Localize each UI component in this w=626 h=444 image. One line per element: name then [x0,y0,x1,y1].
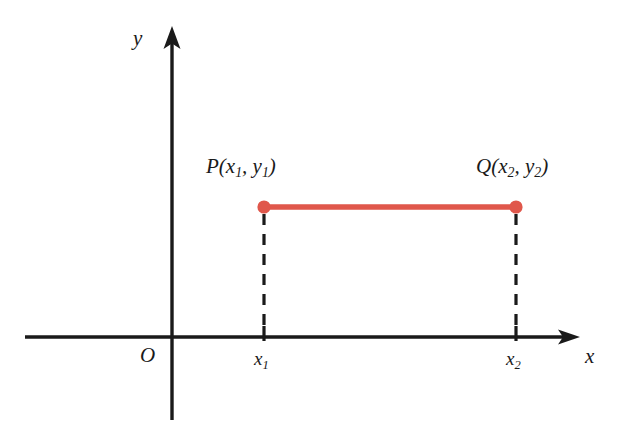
point-label-p-y-sub: 1 [262,165,269,180]
point-label-p-x-var: x [226,154,235,178]
point-label-q-letter: Q [476,154,491,178]
point-label-q-comma: , [514,154,525,178]
point-label-p-x-sub: 1 [235,165,242,180]
x-axis-label: x [585,346,594,367]
y-axis-label: y [133,28,142,49]
tick-label-x2: x2 [506,349,521,368]
point-marker-q [509,200,522,213]
point-label-p-letter: P [206,154,219,178]
point-label-q-x-sub: 2 [508,165,515,180]
tick-label-x2-sub: 2 [514,358,520,372]
point-label-p-y-var: y [253,154,262,178]
point-label-q-x-var: x [498,154,507,178]
point-label-p-open-paren: ( [219,154,226,178]
point-label-q: Q(x2, y2) [476,156,548,177]
tick-label-x1-sub: 1 [262,358,268,372]
point-label-p-comma: , [242,154,253,178]
coordinate-plane-figure: y x O P(x1, y1) Q(x2, y2) x1 x2 [0,0,626,444]
point-label-q-y-var: y [525,154,534,178]
point-label-p-close-paren: ) [269,154,276,178]
origin-label: O [140,345,155,366]
point-marker-p [257,200,270,213]
point-label-q-close-paren: ) [541,154,548,178]
point-label-q-y-sub: 2 [534,165,541,180]
tick-label-x1: x1 [254,349,269,368]
figure-canvas [0,0,626,444]
point-label-p: P(x1, y1) [206,156,276,177]
